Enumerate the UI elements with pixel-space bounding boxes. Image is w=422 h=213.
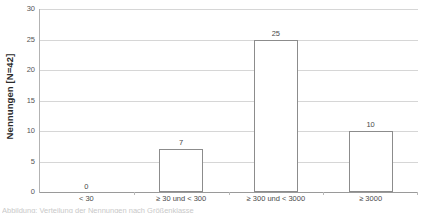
bar-value-3: 25 — [272, 30, 280, 38]
y-tick-30: 30 — [13, 5, 35, 13]
x-label-300-to-3000: ≥ 300 und < 3000 — [229, 194, 324, 203]
bar-3[interactable] — [254, 40, 298, 193]
x-label-gte-3000: ≥ 3000 — [323, 194, 418, 203]
bar-value-1: 0 — [84, 183, 88, 191]
bar-slot-3: 25 — [229, 9, 324, 192]
y-tick-0: 0 — [13, 188, 35, 196]
bar-chart: Nennungen [N=42] 30 25 20 15 10 5 0 0 7 … — [0, 0, 422, 213]
bar-value-2: 7 — [179, 139, 183, 147]
bar-slot-1: 0 — [39, 9, 134, 192]
y-tick-10: 10 — [13, 127, 35, 135]
x-label-lt-30: < 30 — [39, 194, 134, 203]
bar-slot-4: 10 — [323, 9, 418, 192]
y-tick-25: 25 — [13, 36, 35, 44]
bar-value-4: 10 — [366, 121, 374, 129]
x-label-30-to-300: ≥ 30 und < 300 — [134, 194, 229, 203]
bar-2[interactable] — [159, 149, 203, 192]
bar-4[interactable] — [349, 131, 393, 192]
y-tick-5: 5 — [13, 158, 35, 166]
bars-layer: 0 7 25 10 — [39, 9, 418, 192]
x-axis-tick-labels: < 30 ≥ 30 und < 300 ≥ 300 und < 3000 ≥ 3… — [39, 194, 418, 205]
y-tick-20: 20 — [13, 66, 35, 74]
bar-slot-2: 7 — [134, 9, 229, 192]
y-axis-tick-labels: 30 25 20 15 10 5 0 — [9, 9, 35, 192]
y-tick-15: 15 — [13, 97, 35, 105]
clipped-caption: Abbildung: Verteilung der Nennungen nach… — [2, 206, 420, 213]
